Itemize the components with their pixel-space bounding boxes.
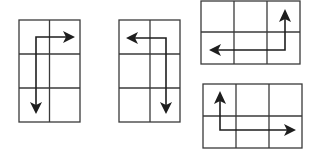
- l-shaped-arrow: [216, 16, 285, 50]
- panel-4: [203, 84, 302, 148]
- l-shaped-arrow: [220, 98, 289, 130]
- l-shaped-arrow: [36, 37, 68, 106]
- panel-3: [201, 1, 300, 64]
- panel-2: [119, 20, 180, 122]
- panel-1: [19, 20, 80, 122]
- grid-arrow-diagram: [0, 0, 314, 153]
